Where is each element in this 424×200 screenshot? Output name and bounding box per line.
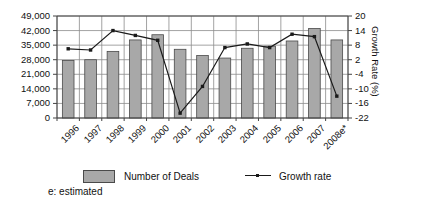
- growth-marker-2004: [246, 42, 249, 45]
- bar-1996: [62, 61, 74, 118]
- bar-2007: [309, 28, 321, 118]
- growth-marker-2007: [313, 35, 316, 38]
- bar-2004: [241, 48, 253, 118]
- growth-marker-2002: [201, 85, 204, 88]
- y-axis-left-tick: 28,000: [0, 55, 50, 65]
- y-axis-right-tick: 2: [355, 55, 360, 65]
- legend-swatch-bars: [83, 170, 115, 183]
- bar-1999: [130, 40, 142, 118]
- growth-marker-1998: [111, 29, 114, 32]
- y-axis-left-tick: 42,000: [0, 26, 50, 36]
- bar-2006: [286, 41, 298, 118]
- growth-marker-2003: [223, 46, 226, 49]
- chart-legend: Number of Deals Growth rate e: estimated: [0, 163, 424, 200]
- y-axis-right-tick: -10: [355, 84, 369, 94]
- y-axis-left-tick: 7,000: [0, 98, 50, 108]
- y-axis-right-tick: 8: [355, 40, 360, 50]
- y-axis-left-tick: 14,000: [0, 84, 50, 94]
- bar-series: [62, 28, 342, 118]
- y-axis-left-tick: 35,000: [0, 40, 50, 50]
- legend-marker-growth: [256, 174, 259, 177]
- growth-marker-1996: [66, 47, 69, 50]
- legend-label-bars: Number of Deals: [124, 172, 199, 182]
- legend-label-growth: Growth rate: [279, 172, 331, 182]
- bar-2003: [219, 58, 231, 118]
- y-axis-right-tick: -22: [355, 113, 369, 123]
- y-axis-left-tick: 21,000: [0, 69, 50, 79]
- growth-marker-2008e*: [335, 94, 338, 97]
- bar-2008e*: [331, 40, 343, 118]
- y-axis-right-tick: -4: [355, 69, 363, 79]
- growth-marker-2006: [290, 33, 293, 36]
- chart-container: 07,00014,00021,00028,00035,00042,00049,0…: [0, 0, 424, 200]
- y-axis-right-tick: 20: [355, 11, 366, 21]
- bar-1998: [107, 51, 119, 118]
- growth-marker-1999: [134, 34, 137, 37]
- y-axis-right-tick: -16: [355, 98, 369, 108]
- bar-1997: [85, 60, 97, 118]
- y-axis-right-title: Growth Rate (%): [371, 26, 381, 97]
- y-axis-right-tick: 14: [355, 26, 366, 36]
- bar-2000: [152, 35, 164, 118]
- growth-marker-2001: [178, 111, 181, 114]
- growth-marker-2005: [268, 46, 271, 49]
- growth-marker-2000: [156, 39, 159, 42]
- y-axis-left-tick: 0: [0, 113, 50, 123]
- chart-footnote: e: estimated: [48, 187, 102, 197]
- growth-marker-1997: [89, 48, 92, 51]
- y-axis-left-tick: 49,000: [0, 11, 50, 21]
- bar-2005: [264, 46, 276, 118]
